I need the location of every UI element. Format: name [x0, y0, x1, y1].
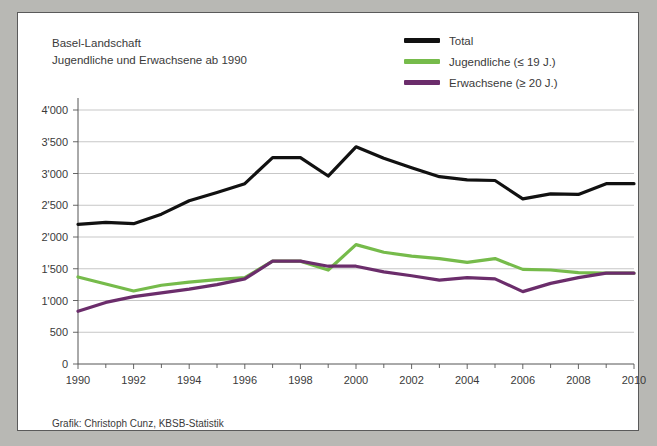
legend-swatch-total — [404, 38, 440, 43]
chart-panel: Basel-Landschaft Jugendliche und Erwachs… — [17, 12, 639, 431]
legend-label-total: Total — [449, 35, 473, 47]
legend-swatch-erwachsene — [404, 80, 440, 85]
chart-credit: Grafik: Christoph Cunz, KBSB-Statistik — [52, 418, 224, 429]
legend-label-erwachsene: Erwachsene (≥ 20 J.) — [449, 77, 558, 89]
legend-label-jugendliche: Jugendliche (≤ 19 J.) — [449, 56, 556, 68]
legend-item-jugendliche: Jugendliche (≤ 19 J.) — [404, 51, 558, 72]
legend-item-total: Total — [404, 30, 558, 51]
chart-legend: Total Jugendliche (≤ 19 J.) Erwachsene (… — [404, 30, 558, 93]
legend-item-erwachsene: Erwachsene (≥ 20 J.) — [404, 72, 558, 93]
chart-title-line-1: Basel-Landschaft — [52, 35, 247, 52]
chart-subtitle-line-2: Jugendliche und Erwachsene ab 1990 — [52, 52, 247, 69]
chart-title-block: Basel-Landschaft Jugendliche und Erwachs… — [52, 35, 247, 68]
legend-swatch-jugendliche — [404, 59, 440, 64]
